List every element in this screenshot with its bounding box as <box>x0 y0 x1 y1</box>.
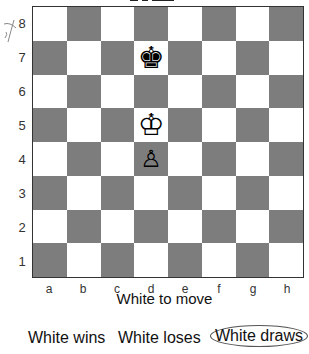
square-e1[interactable] <box>168 243 202 277</box>
square-d3[interactable] <box>134 176 168 210</box>
square-g3[interactable] <box>236 176 270 210</box>
square-f7[interactable] <box>202 41 236 75</box>
square-c6[interactable] <box>101 75 135 109</box>
square-b2[interactable] <box>67 210 101 244</box>
square-d1[interactable] <box>134 243 168 277</box>
square-e6[interactable] <box>168 75 202 109</box>
square-b8[interactable] <box>67 7 101 41</box>
square-f6[interactable] <box>202 75 236 109</box>
rank-label-3: 3 <box>16 186 28 201</box>
square-b1[interactable] <box>67 243 101 277</box>
rank-label-6: 6 <box>16 84 28 99</box>
square-e5[interactable] <box>168 108 202 142</box>
option-white-loses[interactable]: White loses <box>118 329 201 347</box>
square-h1[interactable] <box>269 243 303 277</box>
square-g2[interactable] <box>236 210 270 244</box>
square-a6[interactable] <box>33 75 67 109</box>
square-e4[interactable] <box>168 142 202 176</box>
square-b3[interactable] <box>67 176 101 210</box>
square-c3[interactable] <box>101 176 135 210</box>
square-a5[interactable] <box>33 108 67 142</box>
square-h4[interactable] <box>269 142 303 176</box>
option-white-wins[interactable]: White wins <box>28 329 105 347</box>
rank-label-8: 8 <box>16 16 28 31</box>
square-f2[interactable] <box>202 210 236 244</box>
cut-off-title <box>130 0 182 3</box>
square-d2[interactable] <box>134 210 168 244</box>
square-a1[interactable] <box>33 243 67 277</box>
white-king-icon[interactable]: ♔ <box>138 110 165 140</box>
square-g4[interactable] <box>236 142 270 176</box>
square-d6[interactable] <box>134 75 168 109</box>
square-a7[interactable] <box>33 41 67 75</box>
square-c4[interactable] <box>101 142 135 176</box>
square-d8[interactable] <box>134 7 168 41</box>
square-c1[interactable] <box>101 243 135 277</box>
square-f1[interactable] <box>202 243 236 277</box>
rank-label-2: 2 <box>16 220 28 235</box>
square-a4[interactable] <box>33 142 67 176</box>
square-e8[interactable] <box>168 7 202 41</box>
square-g8[interactable] <box>236 7 270 41</box>
black-king-icon[interactable]: ♚ <box>138 43 165 73</box>
square-g5[interactable] <box>236 108 270 142</box>
square-h8[interactable] <box>269 7 303 41</box>
square-b7[interactable] <box>67 41 101 75</box>
square-d5[interactable]: ♔ <box>134 108 168 142</box>
square-f3[interactable] <box>202 176 236 210</box>
rank-label-1: 1 <box>16 254 28 269</box>
chess-board[interactable]: ♚♔♙ <box>32 6 304 278</box>
square-a3[interactable] <box>33 176 67 210</box>
square-g6[interactable] <box>236 75 270 109</box>
square-b4[interactable] <box>67 142 101 176</box>
square-c7[interactable] <box>101 41 135 75</box>
square-f5[interactable] <box>202 108 236 142</box>
square-c8[interactable] <box>101 7 135 41</box>
square-h6[interactable] <box>269 75 303 109</box>
rank-label-5: 5 <box>16 118 28 133</box>
square-h5[interactable] <box>269 108 303 142</box>
square-e2[interactable] <box>168 210 202 244</box>
square-e7[interactable] <box>168 41 202 75</box>
option-white-draws[interactable]: White draws <box>210 325 308 347</box>
square-g7[interactable] <box>236 41 270 75</box>
square-b6[interactable] <box>67 75 101 109</box>
square-b5[interactable] <box>67 108 101 142</box>
square-f4[interactable] <box>202 142 236 176</box>
white-pawn-icon[interactable]: ♙ <box>140 147 162 171</box>
square-c5[interactable] <box>101 108 135 142</box>
square-c2[interactable] <box>101 210 135 244</box>
square-h2[interactable] <box>269 210 303 244</box>
rank-label-7: 7 <box>16 50 28 65</box>
square-d4[interactable]: ♙ <box>134 142 168 176</box>
side-to-move-label: White to move <box>0 290 309 307</box>
square-a8[interactable] <box>33 7 67 41</box>
answer-options: White wins White loses White draws <box>0 327 309 351</box>
square-h3[interactable] <box>269 176 303 210</box>
square-f8[interactable] <box>202 7 236 41</box>
square-d7[interactable]: ♚ <box>134 41 168 75</box>
square-a2[interactable] <box>33 210 67 244</box>
square-h7[interactable] <box>269 41 303 75</box>
square-g1[interactable] <box>236 243 270 277</box>
rank-label-4: 4 <box>16 152 28 167</box>
square-e3[interactable] <box>168 176 202 210</box>
